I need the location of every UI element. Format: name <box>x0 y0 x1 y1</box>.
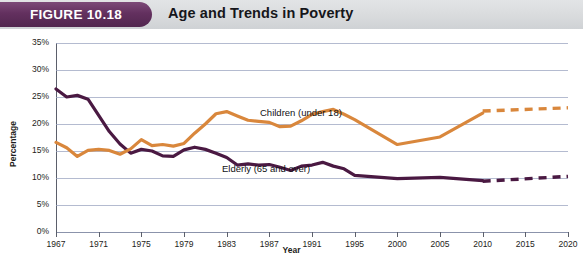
x-tick-label: 1971 <box>79 239 119 249</box>
figure-number-badge: FIGURE 10.18 <box>0 2 152 27</box>
y-tick-label: 5% <box>15 199 49 209</box>
x-tick-label: 1975 <box>121 239 161 249</box>
x-tick-label: 1987 <box>249 239 289 249</box>
series-lines <box>56 43 568 233</box>
x-tick-label: 2015 <box>505 239 545 249</box>
x-tick-label: 1967 <box>36 239 76 249</box>
y-tick-label: 15% <box>15 145 49 155</box>
x-tick-label: 2005 <box>420 239 460 249</box>
series-label-children: Children (under 18) <box>260 107 342 118</box>
figure-header-bar: FIGURE 10.18 Age and Trends in Poverty <box>0 0 583 29</box>
chart-area: Percentage Year 35%30%25%20%15%10%5%0% 1… <box>0 29 583 268</box>
x-tick-mark <box>568 232 569 237</box>
figure-title: Age and Trends in Poverty <box>168 5 353 21</box>
x-tick-label: 2000 <box>377 239 417 249</box>
figure-number-label: FIGURE 10.18 <box>30 7 122 22</box>
y-tick-label: 0% <box>15 226 49 236</box>
y-tick-label: 25% <box>15 91 49 101</box>
line-children-projected <box>483 108 568 111</box>
series-label-elderly: Elderly (65 and over) <box>222 163 310 174</box>
y-tick-label: 20% <box>15 118 49 128</box>
x-tick-label: 1983 <box>207 239 247 249</box>
plot-region: 35%30%25%20%15%10%5%0% 19671971197519791… <box>56 43 568 232</box>
x-tick-label: 1979 <box>164 239 204 249</box>
x-tick-label: 2010 <box>463 239 503 249</box>
y-tick-label: 30% <box>15 64 49 74</box>
x-tick-label: 1991 <box>292 239 332 249</box>
y-tick-label: 10% <box>15 172 49 182</box>
line-elderly-projected <box>483 176 568 181</box>
x-tick-label: 1995 <box>335 239 375 249</box>
y-tick-label: 35% <box>15 37 49 47</box>
x-tick-label: 2020 <box>548 239 583 249</box>
